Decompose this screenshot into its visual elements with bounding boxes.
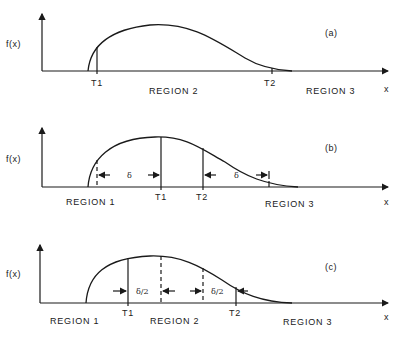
panel-c: δ/2 δ/2 f(x) (c) T1 T2 REGION 1 REGION 2… — [6, 245, 389, 327]
panel-id: (b) — [325, 143, 338, 153]
x-axis-label: x — [384, 312, 389, 322]
panel-id: (a) — [325, 28, 338, 38]
region-3-label: REGION 3 — [306, 86, 355, 96]
region-2-label: REGION 2 — [150, 316, 199, 326]
t2-label: T2 — [196, 192, 208, 202]
distribution-curve — [88, 137, 298, 187]
t1-label: T1 — [122, 308, 134, 318]
t1-label: T1 — [155, 192, 167, 202]
x-axis-label: x — [384, 84, 389, 94]
delta-label: δ — [127, 171, 132, 180]
region-3-label: REGION 3 — [265, 199, 314, 209]
delta-half-label: δ/2 — [136, 287, 149, 296]
delta-half-label: δ/2 — [211, 287, 224, 296]
y-axis-label: f(x) — [6, 39, 21, 49]
y-axis-label: f(x) — [6, 269, 21, 279]
region-1-label: REGION 1 — [50, 316, 99, 326]
t1-label: T1 — [91, 78, 103, 88]
threshold-region-diagram: f(x) (a) T1 T2 REGION 2 REGION 3 x δ δ f… — [0, 0, 408, 337]
t2-label: T2 — [229, 308, 241, 318]
delta-label: δ — [234, 171, 239, 180]
panel-b: δ δ f(x) (b) T1 T2 REGION 1 REGION 3 x — [6, 128, 389, 209]
region-3-label: REGION 3 — [283, 317, 332, 327]
x-axis-label: x — [384, 197, 389, 207]
distribution-curve — [86, 256, 292, 303]
distribution-curve — [88, 25, 292, 71]
region-2-label: REGION 2 — [149, 86, 198, 96]
panel-id: (c) — [325, 262, 337, 272]
y-axis-label: f(x) — [6, 154, 21, 164]
panel-a: f(x) (a) T1 T2 REGION 2 REGION 3 x — [6, 14, 389, 96]
t2-label: T2 — [264, 78, 276, 88]
region-1-label: REGION 1 — [66, 197, 115, 207]
